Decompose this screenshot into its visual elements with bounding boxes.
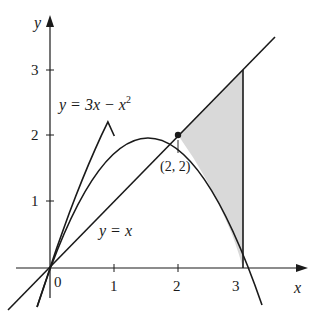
x-axis-arrow-icon	[296, 264, 308, 272]
y-tick-label-2: 2	[31, 127, 39, 143]
x-tick-label-1: 1	[110, 278, 118, 294]
x-axis-label: x	[293, 279, 301, 296]
line-label: y = x	[97, 222, 132, 240]
parabola-label: y = 3x − x2	[57, 94, 131, 114]
y-axis-arrow-icon	[46, 15, 54, 27]
y-tick-label-3: 3	[31, 62, 39, 78]
parabola-y-equals-3x-minus-x-squared	[37, 122, 114, 307]
parabola	[37, 122, 114, 307]
parabola-curve-path	[37, 57, 179, 307]
origin-label: 0	[54, 274, 62, 290]
y-axis-label: y	[32, 14, 42, 32]
x-tick-label-2: 2	[173, 278, 181, 294]
intersection-point	[175, 132, 181, 138]
area-between-curves-figure: y x 0 1 2 3 1 2 3 y = 3x − x2 y = x (2, …	[0, 0, 324, 313]
x-tick-label-3: 3	[232, 278, 240, 294]
intersection-label: (2, 2)	[160, 159, 191, 175]
y-tick-label-1: 1	[31, 193, 39, 209]
parabola-curve	[37, 122, 114, 307]
